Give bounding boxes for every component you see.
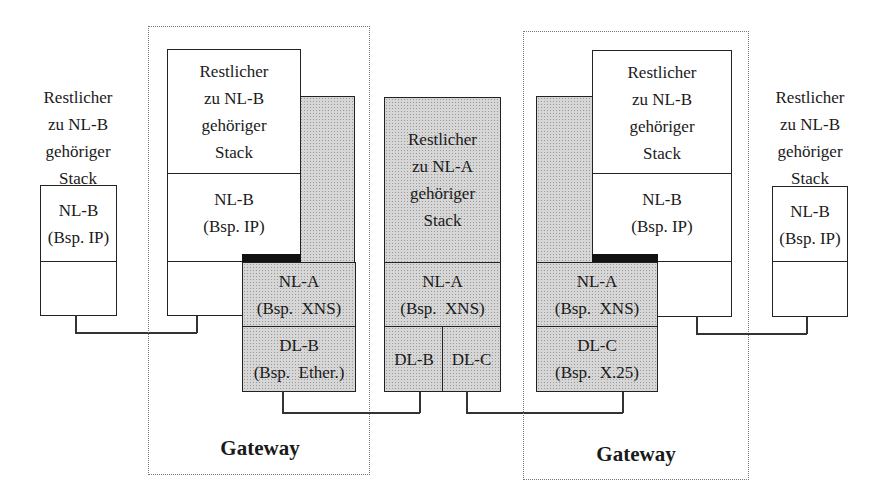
label-line: Restlicher	[776, 84, 845, 111]
connector-center-dl-b-up	[419, 391, 421, 413]
label-line: zu NL-A	[412, 153, 473, 180]
label-line: DL-B	[394, 346, 434, 373]
right-gateway-nl-b-layer: NL-B (Bsp. IP)	[592, 173, 732, 263]
connector-right-gw-down	[696, 316, 698, 334]
label-line: (Bsp. IP)	[203, 213, 264, 240]
label-line: (Bsp. IP)	[779, 225, 840, 252]
label-line: (Bsp. IP)	[631, 213, 692, 240]
left-gateway-stack-block: Restlicher zu NL-B gehöriger Stack	[167, 49, 301, 175]
right-gateway-lower-layer	[656, 261, 732, 317]
connector-right-host-up	[806, 316, 808, 334]
center-nl-a-layer: NL-A (Bsp. XNS)	[384, 262, 501, 328]
label-line: zu NL-B	[632, 86, 692, 113]
label-line: Restlicher	[44, 84, 113, 111]
connector-left-gw-dl-down	[282, 391, 284, 413]
connector-right-host-horizontal	[696, 333, 807, 335]
left-host-nl-b-layer: NL-B (Bsp. IP)	[40, 185, 117, 263]
center-stack-block: Restlicher zu NL-A gehöriger Stack	[384, 97, 501, 263]
left-gateway-nl-b-layer: NL-B (Bsp. IP)	[167, 173, 301, 263]
right-gateway-nl-a-layer: NL-A (Bsp. XNS)	[536, 262, 658, 328]
right-gateway-nl-a-stack-column	[536, 96, 594, 264]
label-line: DL-B	[279, 332, 319, 359]
label-line: (Bsp. XNS)	[257, 295, 342, 322]
label-line: (Bsp. IP)	[48, 224, 109, 251]
connector-center-dl-c-down	[466, 391, 468, 413]
right-gateway-dl-c-layer: DL-C (Bsp. X.25)	[536, 326, 658, 392]
left-gateway-nl-a-stack-column	[299, 96, 355, 264]
label-line: Stack	[643, 140, 681, 167]
label-line: DL-C	[577, 332, 617, 359]
center-dl-c-layer: DL-C	[442, 326, 501, 392]
label-line: NL-A	[577, 268, 618, 295]
label-line: NL-B	[642, 186, 682, 213]
right-host-nl-b-layer: NL-B (Bsp. IP)	[772, 186, 848, 263]
left-host-lower-layer	[40, 261, 117, 316]
label-line: gehöriger	[45, 138, 110, 165]
label-line: Restlicher	[408, 126, 477, 153]
label-line: (Bsp. Ether.)	[254, 359, 345, 386]
label-line: zu NL-B	[48, 111, 108, 138]
left-host-stack-label: Restlicher zu NL-B gehöriger Stack	[26, 84, 130, 192]
left-gateway-title: Gateway	[180, 436, 340, 461]
label-line: zu NL-B	[780, 111, 840, 138]
label-line: gehöriger	[410, 180, 475, 207]
label-line: (Bsp. X.25)	[555, 359, 639, 386]
label-line: (Bsp. XNS)	[555, 295, 640, 322]
label-line: Stack	[424, 207, 462, 234]
left-gateway-dl-b-layer: DL-B (Bsp. Ether.)	[242, 326, 356, 392]
right-gateway-title: Gateway	[556, 442, 716, 467]
label-line: Restlicher	[200, 58, 269, 85]
label-line: Stack	[215, 139, 253, 166]
label-line: DL-C	[452, 346, 492, 373]
connector-left-gw-center-horizontal	[282, 412, 420, 414]
right-gateway-stack-block: Restlicher zu NL-B gehöriger Stack	[592, 50, 732, 175]
label-line: gehöriger	[201, 112, 266, 139]
left-gateway-nl-a-layer: NL-A (Bsp. XNS)	[242, 262, 356, 328]
label-line: NL-A	[422, 268, 463, 295]
label-line: NL-B	[790, 198, 830, 225]
right-host-lower-layer	[772, 261, 848, 317]
label-line: NL-B	[59, 197, 99, 224]
label-line: NL-B	[214, 186, 254, 213]
center-dl-b-layer: DL-B	[384, 326, 444, 392]
label-line: Restlicher	[628, 59, 697, 86]
label-line: NL-A	[279, 268, 320, 295]
left-gateway-lower-layer	[167, 261, 244, 316]
label-line: (Bsp. XNS)	[400, 295, 485, 322]
label-line: gehöriger	[777, 138, 842, 165]
label-line: gehöriger	[629, 113, 694, 140]
right-host-stack-label: Restlicher zu NL-B gehöriger Stack	[758, 84, 862, 192]
connector-left-host-down	[75, 315, 77, 333]
label-line: zu NL-B	[204, 85, 264, 112]
